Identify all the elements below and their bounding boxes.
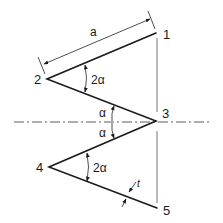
- zigzag-diagram: 1 2 3 4 5 a 2α 2α α α t: [0, 0, 223, 223]
- angle-label-alpha-top: α: [99, 106, 106, 120]
- extension-line-right: [148, 11, 155, 29]
- point-label-5: 5: [163, 203, 170, 218]
- point-label-4: 4: [36, 160, 43, 175]
- zigzag-profile: [47, 33, 157, 208]
- point-label-3: 3: [162, 106, 169, 121]
- angle-label-alpha-bottom: α: [99, 126, 106, 140]
- dimension-label-a: a: [90, 25, 97, 39]
- point-label-1: 1: [163, 27, 170, 42]
- point-label-2: 2: [34, 72, 41, 87]
- thickness-arrow-bottom: [122, 199, 126, 207]
- angle-arc-alpha-top: [112, 106, 114, 121]
- angle-arc-upper-2alpha: [85, 65, 87, 92]
- angle-arc-alpha-bottom: [112, 123, 114, 138]
- angle-label-lower-2alpha: 2α: [93, 161, 107, 175]
- thickness-arrow-top: [129, 182, 136, 192]
- thickness-label-t: t: [137, 178, 141, 189]
- angle-arc-lower-2alpha: [87, 153, 89, 181]
- angle-label-upper-2alpha: 2α: [91, 73, 105, 87]
